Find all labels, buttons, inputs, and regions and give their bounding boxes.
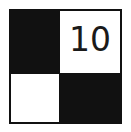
cell-r0-c0-black[interactable] xyxy=(11,11,59,73)
cell-r0-c1-white[interactable]: 10 xyxy=(60,11,120,73)
cell-r1-c1-black[interactable] xyxy=(60,74,120,122)
cell-number: 10 xyxy=(60,23,120,56)
cell-r1-c0-white[interactable] xyxy=(11,74,59,122)
puzzle-grid: 10 xyxy=(9,9,122,124)
